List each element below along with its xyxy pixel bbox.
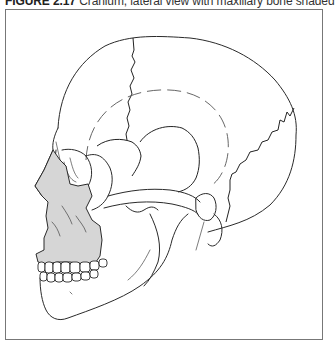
mental-foramen bbox=[70, 292, 72, 294]
zygomatic-arch bbox=[108, 189, 200, 202]
temporal-line bbox=[86, 90, 228, 185]
styloid-process bbox=[196, 222, 204, 250]
sphenoid-suture bbox=[97, 139, 141, 176]
mandible-ramus bbox=[144, 214, 160, 286]
zygomatic-arch-lower bbox=[104, 202, 198, 214]
coronal-suture bbox=[126, 38, 135, 140]
mandible-detail bbox=[128, 250, 150, 280]
squamous-suture bbox=[140, 127, 199, 192]
lambdoid-suture bbox=[230, 108, 294, 180]
cranium-outline bbox=[58, 36, 296, 232]
maxilla-shaded bbox=[35, 150, 102, 264]
external-acoustic-meatus bbox=[196, 194, 216, 221]
occipitomastoid-suture bbox=[226, 180, 230, 222]
coronoid-process bbox=[126, 206, 158, 212]
